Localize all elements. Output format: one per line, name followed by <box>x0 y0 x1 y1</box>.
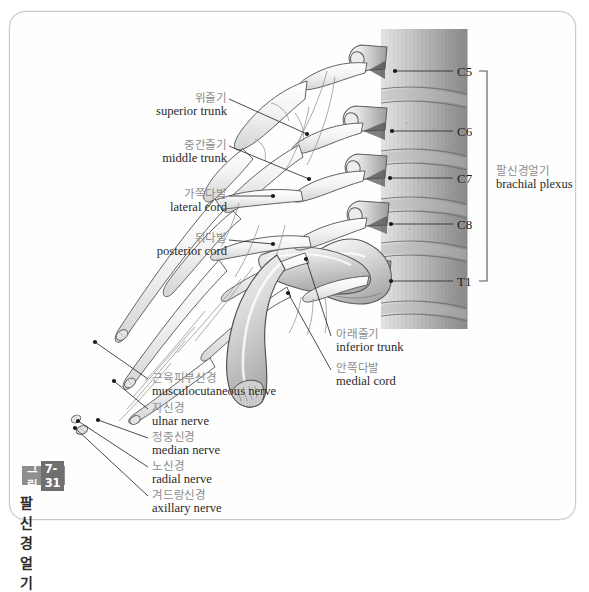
label-ko: 가쪽다발 <box>107 189 227 201</box>
label-superior-trunk: 위줄기 superior trunk <box>111 93 227 118</box>
figure-badge-number: 7-31 <box>41 461 64 491</box>
label-musculocutaneous-nerve: 근육피부신경 musculocutaneous nerve <box>152 373 276 398</box>
label-ko: 위줄기 <box>111 93 227 105</box>
label-ko: 뒤다발 <box>101 233 227 245</box>
label-en: brachial plexus <box>496 178 573 191</box>
cut-nerve-ends <box>70 327 142 436</box>
label-t1: T1 <box>457 274 471 290</box>
label-en: inferior trunk <box>336 341 404 354</box>
label-medial-cord: 안쪽다발 medial cord <box>336 363 396 388</box>
label-middle-trunk: 중간줄기 middle trunk <box>111 140 227 165</box>
label-en: median nerve <box>152 444 220 457</box>
illustration-svg <box>9 11 574 518</box>
label-lateral-cord: 가쪽다발 lateral cord <box>107 189 227 214</box>
label-c8: C8 <box>457 217 472 233</box>
label-ko: 중간줄기 <box>111 140 227 152</box>
label-ko: 자신경 <box>152 403 209 415</box>
label-median-nerve: 정중신경 median nerve <box>152 432 220 457</box>
label-ko: 정중신경 <box>152 432 220 444</box>
figure-badge-label: 그림 <box>27 460 38 492</box>
label-ko: 겨드랑신경 <box>152 490 222 502</box>
label-en: lateral cord <box>107 201 227 214</box>
label-ko: 안쪽다발 <box>336 363 396 375</box>
label-en: superior trunk <box>111 105 227 118</box>
label-ulnar-nerve: 자신경 ulnar nerve <box>152 403 209 428</box>
label-en: ulnar nerve <box>152 415 209 428</box>
label-c7: C7 <box>457 171 472 187</box>
label-axillary-nerve: 겨드랑신경 axillary nerve <box>152 490 222 515</box>
label-inferior-trunk: 아래줄기 inferior trunk <box>336 329 404 354</box>
label-ko: 팔신경얼기 <box>496 166 573 178</box>
label-ko: 노신경 <box>152 461 212 473</box>
label-en: middle trunk <box>111 152 227 165</box>
figure-caption-title: 팔신경얼기 <box>20 492 33 592</box>
anatomical-illustration: 위줄기 superior trunk 중간줄기 middle trunk 가쪽다… <box>9 11 574 518</box>
label-ko: 근육피부신경 <box>152 373 276 385</box>
label-c6: C6 <box>457 124 472 140</box>
figure-badge: 그림 7-31 <box>22 466 65 485</box>
label-posterior-cord: 뒤다발 posterior cord <box>101 233 227 258</box>
label-en: medial cord <box>336 375 396 388</box>
label-brachial-plexus: 팔신경얼기 brachial plexus <box>496 166 573 191</box>
label-en: axillary nerve <box>152 502 222 515</box>
label-en: posterior cord <box>101 245 227 258</box>
label-radial-nerve: 노신경 radial nerve <box>152 461 212 486</box>
label-c5: C5 <box>457 64 472 80</box>
label-en: musculocutaneous nerve <box>152 385 276 398</box>
label-ko: 아래줄기 <box>336 329 404 341</box>
vertebral-column <box>381 29 467 329</box>
label-en: radial nerve <box>152 473 212 486</box>
